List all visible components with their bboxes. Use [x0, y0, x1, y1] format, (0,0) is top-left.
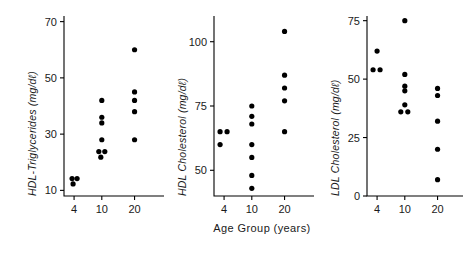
figure-scatter-panels: HDL-Triglycerides (mg/dℓ)1030507041020 H… [0, 0, 463, 256]
axis-lines [367, 16, 463, 196]
plot-area [2, 0, 152, 256]
data-point [435, 86, 440, 91]
panel-hdl-triglycerides: HDL-Triglycerides (mg/dℓ)1030507041020 [2, 0, 152, 256]
data-point [402, 88, 407, 93]
data-point [217, 142, 222, 147]
data-point [435, 93, 440, 98]
data-point [282, 85, 287, 90]
data-point [402, 102, 407, 107]
data-point [249, 114, 254, 119]
data-point [102, 149, 107, 154]
data-point [282, 29, 287, 34]
data-point [435, 147, 440, 152]
panel-ldl-cholesterol: LDL Cholesterol (mg/dℓ)025507541020 [305, 0, 455, 256]
data-point [282, 129, 287, 134]
data-point [435, 119, 440, 124]
data-point [282, 98, 287, 103]
data-point [99, 137, 104, 142]
axis-lines [214, 16, 314, 196]
x-axis-title: Age Group (years) [213, 222, 310, 234]
data-point [132, 109, 137, 114]
data-point [402, 18, 407, 23]
plot-area [305, 0, 455, 256]
data-point [217, 129, 222, 134]
axis-lines [64, 16, 164, 196]
data-point [249, 173, 254, 178]
data-point [249, 155, 254, 160]
data-point [282, 73, 287, 78]
data-point [405, 109, 410, 114]
data-point [132, 98, 137, 103]
data-point [99, 115, 104, 120]
data-point [370, 67, 375, 72]
data-point [132, 137, 137, 142]
data-point [402, 72, 407, 77]
data-point [249, 142, 254, 147]
data-point [435, 177, 440, 182]
data-point [398, 109, 403, 114]
data-point [132, 89, 137, 94]
data-point [98, 155, 103, 160]
data-point [69, 176, 74, 181]
data-point [96, 149, 101, 154]
data-point [249, 121, 254, 126]
data-point [249, 103, 254, 108]
data-point [377, 67, 382, 72]
data-point [249, 186, 254, 191]
data-point [74, 176, 79, 181]
plot-area [152, 0, 302, 256]
data-point [99, 120, 104, 125]
data-point [224, 129, 229, 134]
data-point [99, 98, 104, 103]
data-point [374, 48, 379, 53]
data-point [402, 84, 407, 89]
data-point [132, 47, 137, 52]
panel-hdl-cholesterol: HDL Cholesterol (mg/dℓ)507510041020Age G… [152, 0, 302, 256]
data-point [70, 181, 75, 186]
